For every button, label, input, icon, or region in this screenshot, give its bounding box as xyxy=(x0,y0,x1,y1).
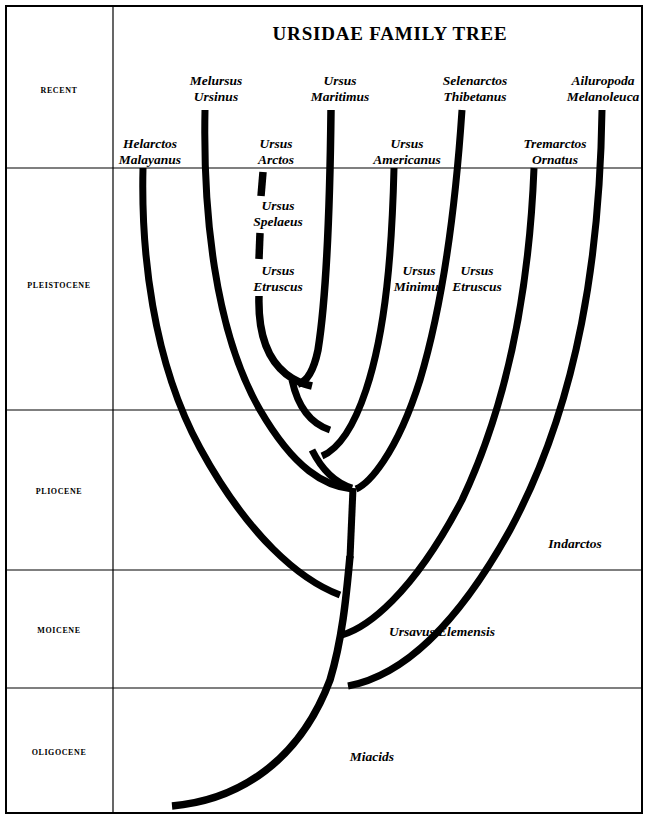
taxon-label-ursus-americanus: Ursus Americanus xyxy=(373,136,441,168)
taxon-label-ailuropoda-melanoleuca: Ailuropoda Melanoleuca xyxy=(567,73,640,105)
branch-ursavus-trunk-path xyxy=(172,556,350,806)
taxon-label-melursus-ursinus: Melursus Ursinus xyxy=(190,73,243,105)
branch-indarctos-ailuropoda-path xyxy=(348,110,602,686)
epoch-label-pleistocene: PLEISTOCENE xyxy=(27,281,90,290)
branch-ursus-etruscus-left-path xyxy=(259,296,312,386)
taxon-label-ursus-etruscus-left: Ursus Etruscus xyxy=(253,263,303,295)
branch-ursus-maritimus-path xyxy=(298,110,331,384)
taxon-label-ursus-spelaeus: Ursus Spelaeus xyxy=(253,198,303,230)
branch-ursus-spelaeus-seg-path xyxy=(259,233,260,259)
phylogenetic-tree-canvas xyxy=(0,0,648,819)
taxon-label-tremarctos-ornatus: Tremarctos Ornatus xyxy=(523,136,586,168)
taxon-label-ursus-minimus: Ursus Minimus xyxy=(394,263,444,295)
branch-ursus-arctos-tip-path xyxy=(261,172,263,196)
branch-ursus-americanus-path xyxy=(322,168,394,456)
taxon-label-miacids: Miacids xyxy=(350,749,394,765)
taxon-label-ursus-etruscus-right: Ursus Etruscus xyxy=(452,263,502,295)
branch-tremarctos-ornatus-path xyxy=(342,168,534,635)
epoch-label-oligocene: OLIGOCENE xyxy=(32,748,87,757)
ursidae-family-tree-diagram: RECENTPLEISTOCENEPLIOCENEMOICENEOLIGOCEN… xyxy=(0,0,648,819)
taxon-label-ursavus-elemensis: Ursavus Elemensis xyxy=(389,624,495,640)
epoch-label-moicene: MOICENE xyxy=(37,626,80,635)
page-title: URSIDAE FAMILY TREE xyxy=(273,23,508,45)
taxon-label-helarctos-malayanus: Helarctos Malayanus xyxy=(119,136,181,168)
taxon-label-selenarctos-thibetanus: Selenarctos Thibetanus xyxy=(443,73,508,105)
branch-helarctos-malayanus-path xyxy=(143,168,340,595)
taxon-label-ursus-arctos: Ursus Arctos xyxy=(258,136,294,168)
branch-lines xyxy=(143,110,602,806)
epoch-label-recent: RECENT xyxy=(41,86,78,95)
taxon-label-ursus-maritimus: Ursus Maritimus xyxy=(311,73,370,105)
taxon-label-indarctos: Indarctos xyxy=(548,536,601,552)
epoch-label-pliocene: PLIOCENE xyxy=(36,487,83,496)
branch-pliocene-stem-path xyxy=(350,488,353,558)
